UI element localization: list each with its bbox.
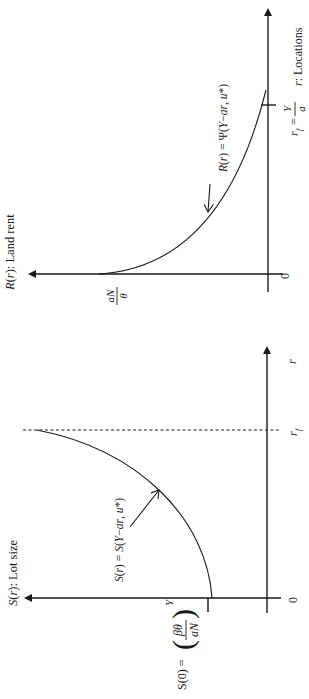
land-rent-pointer-arrow xyxy=(208,184,210,212)
land-rent-curve-label: R(r) = Ψ(Y−ar, u*) xyxy=(217,84,230,173)
lot-size-s0-label: S(0) = ( βθ aN ) Y xyxy=(163,598,201,690)
figure: R(r): Land rent aN θ 0 R(r) = Ψ(Y−ar, u*… xyxy=(0,0,309,699)
svg-text:a: a xyxy=(295,106,307,112)
svg-text:f: f xyxy=(295,127,304,131)
svg-text:aN: aN xyxy=(187,622,201,637)
svg-text:=: = xyxy=(287,118,301,125)
lot-size-curve-label: S(r) = S(Y−ar, u*) xyxy=(113,498,126,582)
land-rent-x-label: r: Locations xyxy=(291,27,305,86)
lot-size-chart: S(r): Lot size S(r) = S(Y−ar, u*) S(0) =… xyxy=(6,348,303,690)
land-rent-rf-label: r f = Y a xyxy=(281,102,307,136)
svg-text:S(0) =: S(0) = xyxy=(175,659,189,690)
land-rent-origin-label: 0 xyxy=(278,273,292,279)
svg-text:aN: aN xyxy=(104,289,116,303)
land-rent-y-intercept-label: aN θ xyxy=(104,287,129,305)
svg-text:f: f xyxy=(294,427,303,431)
land-rent-chart: R(r): Land rent aN θ 0 R(r) = Ψ(Y−ar, u*… xyxy=(3,10,307,305)
svg-text:Y: Y xyxy=(281,104,293,112)
svg-text:βθ: βθ xyxy=(171,624,185,637)
lot-size-rf-label: r f xyxy=(286,427,303,436)
land-rent-y-label: R(r): Land rent xyxy=(3,214,17,291)
svg-text:(: ( xyxy=(166,640,200,650)
svg-text:Y: Y xyxy=(163,598,175,606)
lot-size-pointer-arrow xyxy=(130,490,159,527)
lot-size-x-label: r xyxy=(285,359,299,364)
lot-size-y-label: S(r): Lot size xyxy=(6,540,20,606)
lot-size-origin-label: 0 xyxy=(286,597,300,603)
svg-text:θ: θ xyxy=(117,293,129,299)
land-rent-curve xyxy=(98,90,266,274)
svg-text:): ) xyxy=(166,609,200,619)
